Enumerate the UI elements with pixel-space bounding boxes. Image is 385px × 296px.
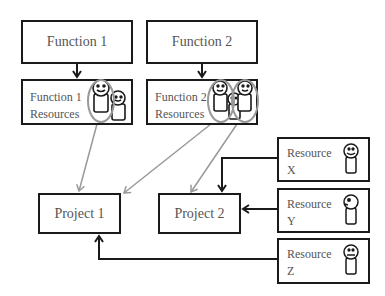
project-1-box[interactable]: Project 1 — [38, 193, 121, 234]
resource-z-line1: Resource — [287, 246, 332, 263]
function-1-box[interactable]: Function 1 — [21, 20, 133, 64]
project-1-label: Project 1 — [40, 206, 119, 222]
resource-y-line2: Y — [287, 213, 332, 230]
resource-x-line1: Resource — [287, 145, 332, 162]
function-2-label: Function 2 — [148, 34, 256, 50]
arrow-resourceX-to-project2 — [222, 158, 277, 191]
function-2-resources-line2: Resources — [155, 106, 207, 123]
function-2-resources-line1: Function 2 — [155, 89, 207, 106]
function-1-resources-line1: Function 1 — [30, 89, 82, 106]
project-2-box[interactable]: Project 2 — [158, 193, 241, 234]
project-2-label: Project 2 — [160, 206, 239, 222]
resource-y-line1: Resource — [287, 196, 332, 213]
function-1-label: Function 1 — [23, 34, 131, 50]
resource-x-box[interactable]: Resource X — [277, 137, 370, 182]
resource-x-line2: X — [287, 162, 332, 179]
arrow-resourceZ-to-project1 — [99, 236, 277, 259]
function-2-box[interactable]: Function 2 — [146, 20, 258, 64]
resource-z-line2: Z — [287, 263, 332, 280]
resource-z-box[interactable]: Resource Z — [277, 238, 370, 284]
function-1-resources-line2: Resources — [30, 106, 82, 123]
arrow-f1res-to-project1 — [79, 124, 97, 191]
resource-y-box[interactable]: Resource Y — [277, 188, 370, 233]
function-2-resources-box[interactable]: Function 2 Resources — [146, 79, 258, 125]
function-1-resources-box[interactable]: Function 1 Resources — [21, 79, 133, 125]
